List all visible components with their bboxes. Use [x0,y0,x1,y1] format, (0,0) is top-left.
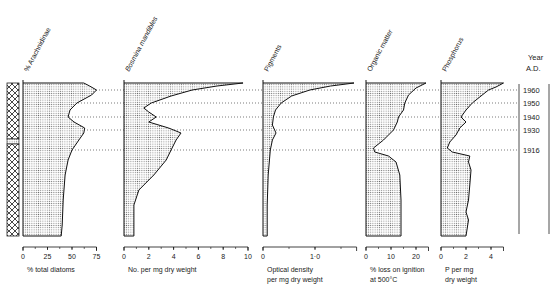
panel-phosphorus: 024P per mgdry weightPhosphorus [439,36,503,284]
panel-title: Bosmina mandibles [124,15,159,73]
tick-label: 4 [489,253,493,260]
tick-label: 25 [44,253,52,260]
tick-label: 10 [244,253,252,260]
panel-title: Organic matter [366,28,395,73]
tick-label: 75 [93,253,101,260]
profile-panels: 0255075% total diatoms% Arachnidinae0246… [21,15,503,284]
tick-label: 6 [196,253,200,260]
x-axis-label: % total diatoms [27,266,75,273]
tick-label: 50 [68,253,76,260]
year-axis-title: Year [528,53,544,62]
x-axis-label: % loss on ignition [370,266,425,274]
x-axis-label-2: per mg dry weight [267,276,323,284]
x-axis-label-2: at 500°C [370,276,397,283]
year-label: 1950 [523,99,540,108]
year-axis-subtitle: A.D. [526,64,541,73]
panel-title: Pigments [263,43,284,73]
year-label: 1940 [523,113,540,122]
tick-label: 0 [439,253,443,260]
panel-pigments: 01·0Optical densityper mg dry weightPigm… [261,43,357,284]
tick-label: 1·0 [310,253,320,260]
panel-arachnidinae: 0255075% total diatoms% Arachnidinae [21,26,100,273]
tick-label: 2 [147,253,151,260]
tick-label: 0 [122,253,126,260]
tick-label: 10 [387,253,395,260]
tick-label: 20 [412,253,420,260]
year-axis: Year A.D. 19601950194019301916 [519,53,549,234]
panel-organic: 01020% loss on ignitionat 500°COrganic m… [364,28,428,283]
tick-label: 0 [364,253,368,260]
year-label: 1960 [523,86,540,95]
year-label: 1930 [523,126,540,135]
tick-label: 0 [261,253,265,260]
x-axis-label: No. per mg dry weight [128,266,197,274]
tick-label: 8 [221,253,225,260]
year-label: 1916 [523,146,540,155]
tick-label: 2 [464,253,468,260]
panel-bosmina: 0246810No. per mg dry weightBosmina mand… [122,15,252,274]
tick-label: 4 [172,253,176,260]
stratigraphic-figure: 0255075% total diatoms% Arachnidinae0246… [0,0,551,287]
panel-title: Phosphorus [441,36,466,73]
tick-label: 0 [21,253,25,260]
x-axis-label-2: dry weight [445,276,477,284]
lithology-column [7,83,19,236]
x-axis-label: P per mg [445,266,473,274]
panel-title: % Arachnidinae [23,26,52,72]
x-axis-label: Optical density [267,266,313,274]
